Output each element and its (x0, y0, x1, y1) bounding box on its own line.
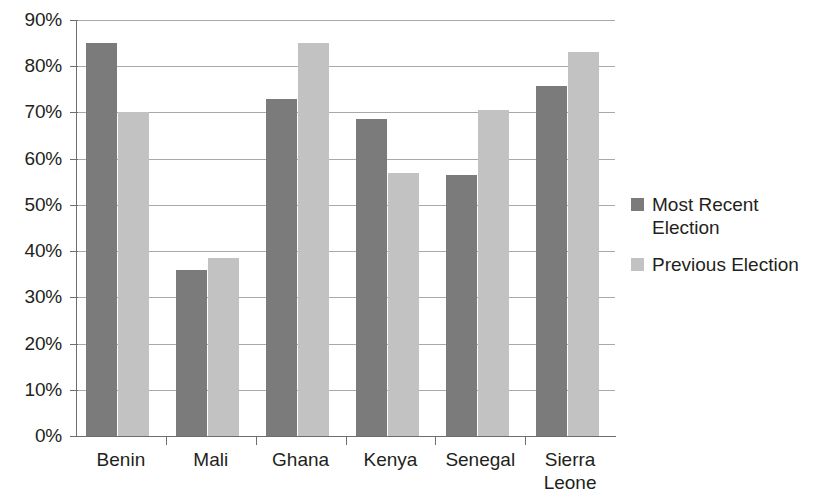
bar (568, 52, 599, 436)
plot-area (76, 20, 615, 436)
legend-item[interactable]: Previous Election (631, 253, 821, 276)
bar (478, 110, 509, 436)
y-axis-tick (70, 390, 78, 391)
bar (446, 175, 477, 436)
y-axis-tick-label: 0% (0, 426, 62, 445)
bar (266, 99, 297, 436)
bar-groups (76, 20, 615, 436)
legend-swatch-icon (631, 198, 644, 211)
y-axis-tick-label: 70% (0, 102, 62, 121)
category-label: Sierra Leone (525, 448, 615, 494)
y-axis-tick (70, 20, 78, 21)
x-axis-tick (435, 436, 436, 445)
category-label: Mali (166, 448, 256, 471)
bar (86, 43, 117, 436)
bar (208, 258, 239, 436)
bar (388, 173, 419, 436)
x-axis-tick (256, 436, 257, 445)
bar-group (525, 20, 615, 436)
y-axis-tick-label: 10% (0, 380, 62, 399)
category-label: Senegal (435, 448, 525, 471)
bar (118, 112, 149, 436)
y-axis-tick (70, 112, 78, 113)
y-axis-tick-label: 40% (0, 241, 62, 260)
legend-label: Most Recent Election (652, 193, 759, 239)
bar (176, 270, 207, 436)
legend-swatch-icon (631, 258, 644, 271)
bar (298, 43, 329, 436)
y-axis-tick (70, 251, 78, 252)
bar-chart: 0%10%20%30%40%50%60%70%80%90% BeninMaliG… (0, 0, 821, 502)
legend-label: Previous Election (652, 253, 799, 276)
bar-group (76, 20, 166, 436)
y-axis-tick-label: 80% (0, 56, 62, 75)
bar-group (346, 20, 436, 436)
y-axis-tick (70, 159, 78, 160)
bar-group (166, 20, 256, 436)
y-axis-tick (70, 344, 78, 345)
y-axis-tick-label: 50% (0, 195, 62, 214)
y-axis-tick-label: 20% (0, 334, 62, 353)
legend-item[interactable]: Most Recent Election (631, 193, 821, 239)
bar-group (435, 20, 525, 436)
y-axis-tick (70, 297, 78, 298)
category-labels: BeninMaliGhanaKenyaSenegalSierra Leone (76, 448, 616, 502)
bar (356, 119, 387, 436)
chart-legend: Most Recent ElectionPrevious Election (631, 193, 821, 290)
y-axis-tick (70, 436, 78, 437)
category-label: Benin (76, 448, 166, 471)
y-axis-tick (70, 66, 78, 67)
x-axis-ticks (76, 436, 616, 437)
y-axis-tick-label: 30% (0, 287, 62, 306)
category-label: Ghana (256, 448, 346, 471)
x-axis-tick (525, 436, 526, 445)
bar-group (256, 20, 346, 436)
bar (536, 86, 567, 436)
category-label: Kenya (346, 448, 436, 471)
y-axis-tick (70, 205, 78, 206)
x-axis-tick (346, 436, 347, 445)
y-axis-tick-label: 90% (0, 10, 62, 29)
x-axis-tick (166, 436, 167, 445)
y-axis-tick-label: 60% (0, 149, 62, 168)
